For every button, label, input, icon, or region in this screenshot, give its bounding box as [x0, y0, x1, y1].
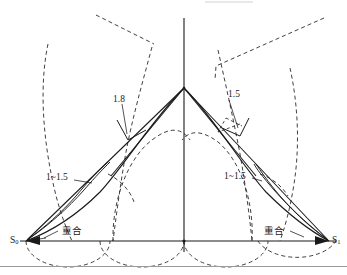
label-coincide-left: 重合 — [62, 226, 82, 236]
angle-detail-dashed-right — [218, 118, 242, 132]
leader-coincide-right — [290, 231, 304, 237]
leader-1p5 — [229, 100, 238, 128]
dashed-curve-outer-right — [280, 68, 297, 241]
arc-below-3 — [184, 241, 268, 267]
endpoint-left-subscript: 0 — [15, 238, 18, 245]
angle-mark-left — [117, 120, 146, 140]
label-endpoint-left: S0 — [10, 236, 19, 246]
endpoint-right-subscript: 1 — [337, 238, 340, 245]
main-arch-curve — [26, 88, 329, 241]
dashed-curve-outer-left — [43, 44, 72, 241]
label-endpoint-right: S1 — [332, 236, 341, 246]
diagram-canvas — [0, 0, 347, 275]
label-ratio-right: 1~1.5 — [224, 172, 246, 182]
dashed-curve-inner-right — [218, 50, 252, 241]
dashed-leader-upper-left — [96, 15, 154, 44]
arc-below-1 — [26, 241, 110, 267]
label-ratio-left: 1~1.5 — [46, 173, 68, 183]
label-angle-right: 1.5 — [228, 90, 240, 100]
label-coincide-right: 重合 — [264, 226, 284, 236]
dashed-leader-upper-right — [215, 18, 324, 80]
figure-root: 1.8 1.5 1~1.5 1~1.5 重合 重合 S0 S1 — [0, 0, 347, 275]
label-angle-left: 1.8 — [113, 95, 125, 105]
arc-below-2 — [100, 241, 184, 267]
angle-corner-marks — [117, 118, 249, 140]
arrowhead-left — [26, 236, 40, 245]
node-dot-origin — [182, 239, 185, 242]
arc-below-4 — [258, 241, 336, 257]
chord-apex-right-end — [184, 88, 328, 240]
node-dot-apex — [183, 87, 186, 90]
baseline-semicircle-arcs — [26, 241, 336, 267]
dashed-lobe-center-left — [113, 130, 190, 241]
dashed-curve-inner-left — [113, 47, 152, 241]
chord-apex-right-node — [184, 88, 256, 176]
apex-chords — [27, 88, 328, 240]
page-separator-rule — [0, 266, 347, 267]
